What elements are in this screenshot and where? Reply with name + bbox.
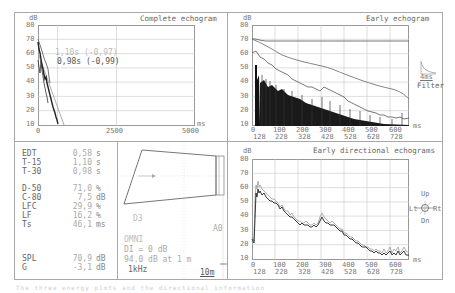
- x-tick-offset: 528: [344, 269, 357, 276]
- filter-window-label: 4ms: [420, 74, 433, 81]
- x-tick-offset: 728: [390, 269, 403, 276]
- room-outline: [124, 150, 216, 204]
- x-tick-offset: 628: [367, 269, 380, 276]
- early-directional-plot: [252, 159, 409, 260]
- y-tick: 50: [240, 64, 248, 71]
- stage-area: [216, 156, 224, 195]
- compass-icon: [416, 199, 434, 217]
- y-tick: 10: [240, 255, 248, 262]
- early-echogram-plot: [252, 25, 409, 126]
- early-echogram-title: Early echogram: [366, 14, 429, 23]
- panel-divider-vertical: [227, 12, 228, 280]
- x-unit-label: ms: [413, 123, 421, 130]
- y-tick: 50: [26, 64, 34, 71]
- source-label: D3: [133, 214, 143, 223]
- y-unit-label: dB: [243, 148, 251, 155]
- complete-echogram-plot: [38, 25, 195, 126]
- x-unit-label: ms: [197, 121, 205, 128]
- x-tick: 5000: [182, 128, 199, 135]
- y-tick: 10: [26, 121, 34, 128]
- t30-annotation: 0,98s (-0,99): [57, 57, 120, 66]
- y-tick: 30: [240, 227, 248, 234]
- source-type: OMNI: [124, 235, 143, 244]
- metric-d50: D-5071,0%: [22, 184, 101, 193]
- y-tick: 50: [240, 198, 248, 205]
- t15-annotation: 1,10s (-0,97): [55, 48, 118, 57]
- y-tick: 70: [240, 36, 248, 43]
- x-tick-offset: 728: [390, 134, 403, 141]
- figure-caption: The three energy plots and the direction…: [16, 284, 265, 291]
- x-tick-offset: 228: [275, 269, 288, 276]
- y-tick: 40: [240, 78, 248, 85]
- metric-lfc: LFC29,9%: [22, 202, 101, 211]
- y-tick: 80: [240, 156, 248, 163]
- y-tick: 20: [26, 107, 34, 114]
- x-tick-offset: 128: [253, 134, 266, 141]
- x-tick-offset: 328: [298, 134, 311, 141]
- y-tick: 60: [240, 184, 248, 191]
- y-tick: 30: [26, 93, 34, 100]
- y-tick: 10: [240, 121, 248, 128]
- x-tick: 2500: [106, 128, 123, 135]
- metric-t15: T-151,10s: [22, 158, 101, 167]
- y-tick: 60: [240, 50, 248, 57]
- complete-echogram-title: Complete echogram: [140, 14, 217, 23]
- x-tick: 0: [36, 128, 40, 135]
- metric-c80: C-807,5dB: [22, 193, 106, 202]
- y-tick: 40: [240, 212, 248, 219]
- y-tick: 80: [240, 22, 248, 29]
- metric-g: G-3,1dB: [22, 263, 106, 272]
- y-tick: 30: [240, 93, 248, 100]
- metric-edt: EDT0,58s: [22, 149, 101, 158]
- compass-down-label: Dn: [421, 218, 429, 225]
- compass-right-label: Rt: [433, 206, 441, 213]
- metric-t30: T-300,98s: [22, 167, 101, 176]
- x-tick-offset: 628: [367, 134, 380, 141]
- x-tick-offset: 428: [321, 269, 334, 276]
- x-tick-offset: 228: [275, 134, 288, 141]
- receiver-label: A0: [213, 224, 223, 233]
- directivity-index: DI = 0 dB: [124, 245, 167, 254]
- filter-caption: Filter: [417, 82, 444, 89]
- y-tick: 60: [26, 50, 34, 57]
- early-directional-title: Early directional echograms: [313, 146, 435, 155]
- metric-lf: LF16,2%: [22, 211, 101, 220]
- x-unit-label: ms: [413, 257, 421, 264]
- x-tick-offset: 328: [298, 269, 311, 276]
- x-tick-offset: 528: [344, 134, 357, 141]
- y-tick: 70: [240, 170, 248, 177]
- y-tick: 80: [26, 22, 34, 29]
- x-tick-offset: 428: [321, 134, 334, 141]
- frequency-band: 1kHz: [128, 265, 147, 274]
- y-tick: 20: [240, 241, 248, 248]
- metric-ts: Ts46,1ms: [22, 220, 106, 229]
- metric-spl: SPL70,9dB: [22, 254, 106, 263]
- y-tick: 20: [240, 107, 248, 114]
- scale-label: 10m: [200, 268, 214, 277]
- x-tick-offset: 128: [253, 269, 266, 276]
- panel-divider-horizontal: [14, 141, 443, 142]
- y-tick: 40: [26, 78, 34, 85]
- compass-up-label: Up: [421, 191, 429, 198]
- source-level: 94.0 dB at 1 m: [124, 255, 191, 264]
- y-tick: 70: [26, 36, 34, 43]
